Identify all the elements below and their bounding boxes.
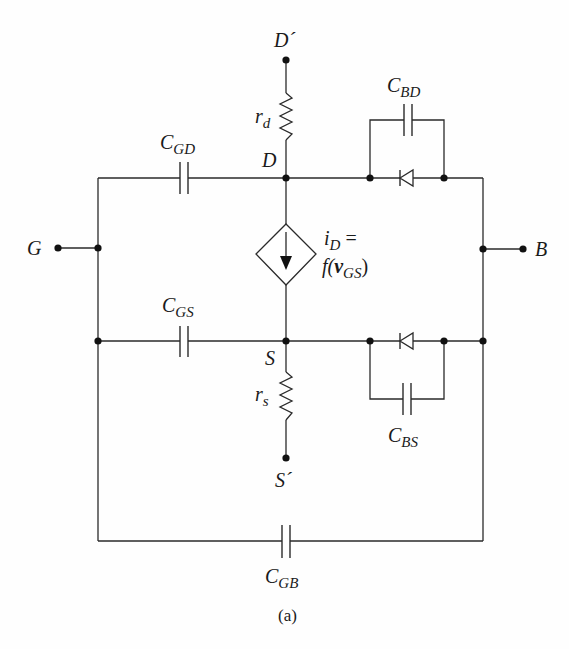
- cgb-main: C: [265, 565, 278, 587]
- fn-pre: f(: [322, 255, 334, 277]
- diode-bs: [400, 333, 413, 349]
- source-resistor-rs: [280, 341, 292, 458]
- diode-bd: [400, 170, 413, 186]
- label-cgs: CGS: [162, 295, 194, 320]
- label-cgd: CGD: [160, 132, 195, 157]
- label-source-ext: S´: [275, 470, 292, 490]
- label-rs: rs: [255, 384, 269, 409]
- cbs-sub: BS: [401, 434, 418, 450]
- cbd-main: C: [387, 74, 400, 96]
- figure-caption: (a): [278, 606, 297, 626]
- circuit-schematic: [0, 0, 569, 649]
- rs-main: r: [255, 383, 263, 405]
- capacitor-cgd: [180, 162, 188, 194]
- id-eq: =: [340, 227, 356, 249]
- label-rd: rd: [255, 106, 270, 131]
- cgs-main: C: [162, 294, 175, 316]
- fn-v: v: [334, 255, 343, 277]
- cbd-sub: BD: [400, 84, 420, 100]
- id-sub: D: [330, 237, 341, 253]
- label-drain: D: [262, 150, 276, 170]
- rs-sub: s: [263, 393, 269, 409]
- circuit-figure: D´ rd D CGD CBD G B iD = f(vGS) CGS S rs…: [0, 0, 569, 649]
- capacitor-cbs: [370, 341, 444, 415]
- cgd-main: C: [160, 131, 173, 153]
- dependent-current-source: [256, 178, 316, 341]
- cgs-sub: GS: [175, 304, 193, 320]
- label-drain-ext: D´: [274, 30, 295, 50]
- cgb-sub: GB: [278, 575, 298, 591]
- label-bulk: B: [535, 239, 547, 259]
- rd-main: r: [255, 105, 263, 127]
- label-cbs: CBS: [388, 425, 418, 450]
- label-id-line1: iD =: [324, 228, 357, 253]
- label-source: S: [265, 348, 275, 368]
- capacitor-cgs: [180, 326, 188, 357]
- drain-resistor-rd: [280, 60, 292, 178]
- fn-post: ): [361, 255, 368, 277]
- capacitor-cbd: [370, 104, 444, 178]
- cgd-sub: GD: [173, 141, 195, 157]
- label-id-line2: f(vGS): [322, 256, 368, 281]
- capacitor-cgb: [98, 525, 483, 558]
- rd-sub: d: [263, 115, 271, 131]
- label-gate: G: [27, 238, 41, 258]
- bulk-node: [483, 178, 523, 541]
- fn-sub: GS: [343, 265, 361, 281]
- label-cbd: CBD: [387, 75, 420, 100]
- gate-node: [58, 178, 98, 541]
- cbs-main: C: [388, 424, 401, 446]
- label-cgb: CGB: [265, 566, 298, 591]
